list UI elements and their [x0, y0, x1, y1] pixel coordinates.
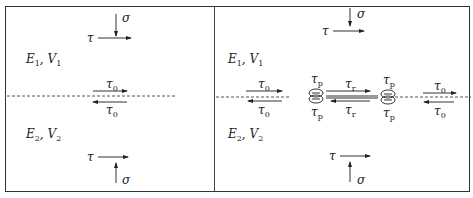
diagram-lines: [0, 0, 473, 198]
taup-label-top-right: τp: [383, 74, 395, 89]
tau0-label-bottom-right-b: τ0: [434, 105, 446, 120]
sigma-label-top-right: σ: [357, 8, 365, 20]
material-label-bottom-right: E2, V2: [228, 128, 263, 143]
taup-label-top-left: τp: [311, 73, 323, 88]
tau0-label-bottom-left: τ0: [106, 104, 118, 119]
tau-label-top-right: τ: [322, 25, 329, 37]
taur-label-top: τr: [345, 78, 355, 93]
sigma-label-bottom-right: σ: [357, 174, 365, 186]
material-label-top-right: E1, V1: [228, 53, 263, 68]
material-label-top-left: E1, V1: [26, 53, 61, 68]
tau-label-bottom-right: τ: [329, 150, 336, 162]
material-label-bottom-left: E2, V2: [26, 128, 61, 143]
tau-label-bottom-left: τ: [87, 151, 94, 163]
tau0-label-top-left: τ0: [106, 78, 118, 93]
taur-label-bottom: τr: [345, 104, 355, 119]
tau0-label-top-right-a: τ0: [258, 78, 270, 93]
sigma-label-top-left: σ: [122, 12, 130, 24]
tau-label-top-left: τ: [87, 32, 94, 44]
tau0-label-bottom-right-a: τ0: [258, 104, 270, 119]
tau0-label-top-right-b: τ0: [434, 80, 446, 95]
taup-label-bottom-right: τp: [383, 107, 395, 122]
taup-label-bottom-left: τp: [311, 106, 323, 121]
sigma-label-bottom-left: σ: [122, 174, 130, 186]
